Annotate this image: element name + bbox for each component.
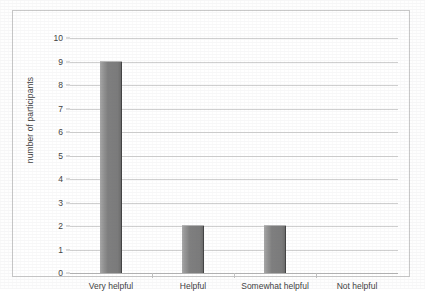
x-tick-mark <box>316 273 317 278</box>
y-tick-mark <box>66 108 70 109</box>
y-tick-mark <box>66 202 70 203</box>
y-tick-label: 0 <box>58 268 63 278</box>
y-tick-mark <box>66 61 70 62</box>
plot-area: 012345678910 Very helpfulHelpfulSomewhat… <box>70 38 398 273</box>
y-tick-label: 10 <box>54 33 63 43</box>
chart-outer-border: number of participants 012345678910 Very… <box>12 10 410 277</box>
y-tick-mark <box>66 85 70 86</box>
y-tick-mark <box>66 249 70 250</box>
bar <box>182 225 204 273</box>
x-tick-label: Very helpful <box>89 281 133 291</box>
bar <box>100 61 122 274</box>
y-tick-mark <box>66 38 70 39</box>
y-tick-label: 5 <box>58 151 63 161</box>
y-tick-label: 7 <box>58 104 63 114</box>
y-tick-mark <box>66 155 70 156</box>
x-tick-mark <box>152 273 153 278</box>
bar <box>264 225 286 273</box>
y-tick-label: 9 <box>58 57 63 67</box>
y-tick-mark <box>66 226 70 227</box>
y-tick-label: 6 <box>58 127 63 137</box>
x-tick-label: Not helpful <box>337 281 378 291</box>
y-tick-label: 2 <box>58 221 63 231</box>
y-tick-mark <box>66 132 70 133</box>
gridline <box>70 38 398 39</box>
y-tick-mark <box>66 179 70 180</box>
x-tick-label: Helpful <box>180 281 206 291</box>
y-tick-label: 1 <box>58 245 63 255</box>
y-tick-label: 4 <box>58 174 63 184</box>
y-axis-title: number of participants <box>25 55 35 185</box>
y-tick-label: 3 <box>58 198 63 208</box>
x-tick-mark <box>234 273 235 278</box>
y-tick-label: 8 <box>58 80 63 90</box>
x-tick-label: Somewhat helpful <box>241 281 309 291</box>
